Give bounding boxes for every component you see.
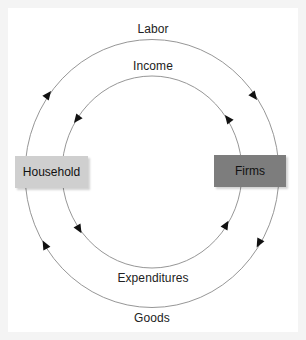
arrow-icon (39, 239, 50, 251)
household-node: Household (15, 156, 88, 188)
firms-label: Firms (235, 164, 265, 178)
household-label: Household (23, 165, 80, 179)
arrow-icon (221, 219, 232, 231)
flow-label-expenditures: Expenditures (117, 271, 188, 285)
firms-node: Firms (214, 155, 286, 187)
arrow-icon (71, 113, 83, 125)
flow-label-labor: Labor (137, 22, 168, 36)
flow-label-income: Income (133, 59, 173, 73)
flow-label-goods: Goods (134, 311, 170, 325)
